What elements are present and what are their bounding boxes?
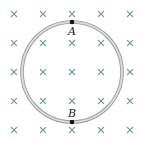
field-cross-icon <box>69 69 74 74</box>
field-cross-icon <box>127 40 132 45</box>
field-cross-icon <box>127 127 132 132</box>
field-cross-icon <box>40 98 45 103</box>
field-cross-icon <box>40 11 45 16</box>
field-cross-icon <box>98 98 103 103</box>
point-a-dot <box>70 20 75 25</box>
field-cross-icon <box>11 40 16 45</box>
field-cross-icon <box>40 69 45 74</box>
field-cross-icon <box>69 98 74 103</box>
field-cross-icon <box>127 98 132 103</box>
loop-in-magnetic-field-diagram: A B <box>0 0 141 141</box>
field-cross-icon <box>98 40 103 45</box>
field-cross-icon <box>11 127 16 132</box>
field-cross-icon <box>127 69 132 74</box>
diagram-canvas: A B <box>0 0 141 141</box>
field-cross-icon <box>11 98 16 103</box>
field-cross-icon <box>69 11 74 16</box>
field-cross-icon <box>98 11 103 16</box>
field-cross-icon <box>40 127 45 132</box>
field-cross-icon <box>127 11 132 16</box>
field-cross-icon <box>69 40 74 45</box>
field-cross-icon <box>11 69 16 74</box>
point-b-label: B <box>67 107 76 120</box>
field-cross-icon <box>69 127 74 132</box>
field-cross-icon <box>40 40 45 45</box>
field-cross-icon <box>98 127 103 132</box>
field-cross-icon <box>11 11 16 16</box>
point-a-label: A <box>67 25 76 38</box>
point-b-dot <box>70 120 75 125</box>
field-cross-icon <box>98 69 103 74</box>
